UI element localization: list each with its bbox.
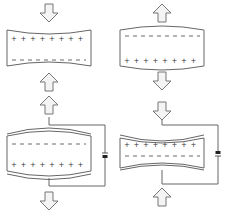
arrow-down-icon: [40, 4, 58, 22]
arrow-down-icon: [153, 72, 171, 90]
arrow-up-icon: [153, 188, 171, 206]
positive-charges: + + + + + + + +: [11, 161, 83, 169]
crystal-body: [7, 131, 91, 176]
panel-top-left: + + + + + + + +: [7, 4, 91, 91]
positive-charges: + + + + + + + +: [124, 141, 196, 149]
panel-bottom-left: + + + + + + + +: [7, 96, 108, 210]
arrow-down-icon: [153, 102, 171, 120]
arrow-up-icon: [153, 4, 171, 22]
positive-charges: + + + + + + + +: [124, 57, 196, 65]
arrow-down-icon: [40, 192, 58, 210]
panel-bottom-right: + + + + + + + +: [120, 102, 221, 206]
panel-top-right: + + + + + + + +: [120, 4, 204, 90]
piezoelectric-diagram: + + + + + + + + + + + + + + + + + + + + …: [0, 0, 227, 220]
arrow-up-icon: [40, 96, 58, 114]
battery-icon: [216, 151, 221, 154]
positive-charges: + + + + + + + +: [11, 35, 83, 43]
arrow-up-icon: [40, 73, 58, 91]
battery-icon: [103, 155, 108, 158]
